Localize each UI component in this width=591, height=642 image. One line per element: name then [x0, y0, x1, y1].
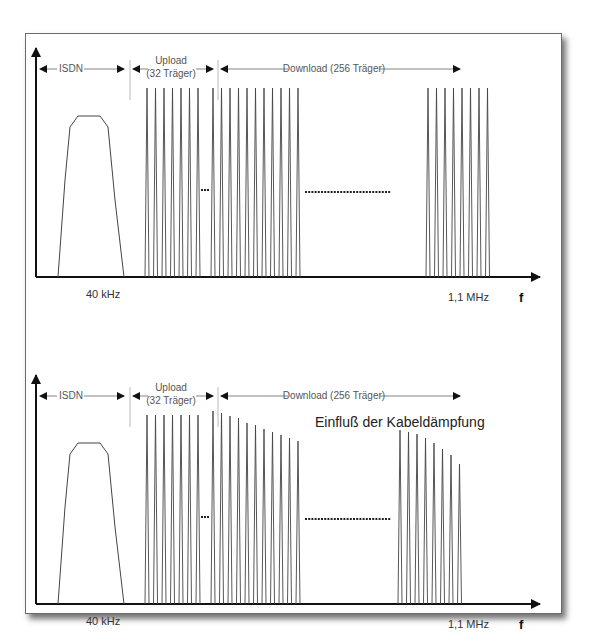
top-spectrum-diagram: ISDN Upload (32 Träger) Download (256 Tr…: [36, 48, 540, 305]
upload-label-line2: (32 Träger): [146, 68, 195, 79]
freq-start-label: 40 kHz: [86, 288, 120, 300]
freq-start-label: 40 kHz: [86, 615, 120, 627]
isdn-spectrum-shape: [58, 443, 124, 604]
freq-end-label: 1,1 MHz: [448, 618, 489, 630]
download-carriers-group1-attenuated: [211, 411, 300, 604]
upload-label-line2: (32 Träger): [146, 395, 195, 406]
isdn-label: ISDN: [59, 390, 83, 401]
bottom-spectrum-diagram: ISDN Upload (32 Träger) Download (256 Tr…: [36, 375, 540, 632]
x-axis-symbol: f: [519, 617, 524, 632]
download-carriers-group1: [211, 88, 300, 277]
freq-end-label: 1,1 MHz: [448, 291, 489, 303]
upload-label-line1: Upload: [155, 55, 187, 66]
attenuation-annotation: Einfluß der Kabeldämpfung: [315, 414, 485, 430]
download-label: Download (256 Träger): [283, 390, 385, 401]
isdn-spectrum-shape: [58, 116, 124, 277]
upload-carriers: [145, 88, 200, 277]
x-axis-symbol: f: [519, 290, 524, 305]
upload-label-line1: Upload: [155, 382, 187, 393]
download-label: Download (256 Träger): [283, 63, 385, 74]
download-carriers-group2-attenuated: [398, 430, 462, 604]
upload-carriers: [145, 415, 200, 604]
spectrum-diagrams: ISDN Upload (32 Träger) Download (256 Tr…: [0, 0, 591, 642]
isdn-label: ISDN: [59, 63, 83, 74]
download-carriers-group2: [426, 88, 490, 277]
